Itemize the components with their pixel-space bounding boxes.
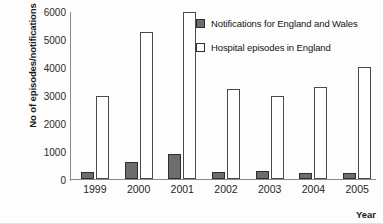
chart-legend: Notifications for England and WalesHospi… — [196, 18, 358, 66]
bar — [271, 96, 284, 179]
legend-label: Hospital episodes in England — [211, 42, 331, 53]
bar — [183, 12, 196, 179]
x-axis-tick-label: 2001 — [171, 183, 194, 195]
x-axis-line — [70, 179, 376, 180]
bar — [227, 89, 240, 179]
bar — [168, 154, 181, 179]
bar — [212, 172, 225, 179]
x-axis-tick-label: 2003 — [258, 183, 281, 195]
bar — [125, 162, 138, 179]
x-axis-tick-labels: 1999200020012002200320042005 — [70, 183, 376, 199]
y-axis-tick-label: 4000 — [32, 63, 66, 74]
x-axis-tick-label: 2000 — [127, 183, 150, 195]
x-axis-tick-label: 2005 — [345, 183, 368, 195]
bar-group — [125, 11, 153, 179]
y-axis-tick-label: 0 — [32, 175, 66, 186]
bar-group — [168, 11, 196, 179]
bar — [140, 32, 153, 179]
y-axis-tick-label: 2000 — [32, 119, 66, 130]
x-axis-tick-label: 1999 — [83, 183, 106, 195]
y-axis-tick-label: 1000 — [32, 147, 66, 158]
legend-item: Notifications for England and Wales — [196, 18, 358, 29]
bar — [81, 172, 94, 179]
x-axis-tick-label: 2002 — [214, 183, 237, 195]
legend-swatch-icon — [196, 43, 205, 52]
x-axis-tick-label: 2004 — [302, 183, 325, 195]
bar-chart-figure: No of episodes/notifications 01000200030… — [0, 0, 384, 224]
bar — [358, 67, 371, 179]
x-axis-title: Year — [356, 209, 376, 220]
legend-label: Notifications for England and Wales — [211, 18, 358, 29]
y-axis-tick-label: 6000 — [32, 7, 66, 18]
bar — [314, 87, 327, 179]
bar — [343, 173, 356, 179]
y-axis-tick-label: 5000 — [32, 35, 66, 46]
legend-swatch-icon — [196, 19, 205, 28]
legend-item: Hospital episodes in England — [196, 42, 358, 53]
bar — [256, 171, 269, 179]
bar — [299, 173, 312, 179]
bar — [96, 96, 109, 179]
y-axis-tick-label: 3000 — [32, 91, 66, 102]
bar-group — [81, 11, 109, 179]
y-axis-line — [70, 12, 71, 181]
y-axis-tick-labels: 0100020003000400050006000 — [32, 0, 66, 224]
